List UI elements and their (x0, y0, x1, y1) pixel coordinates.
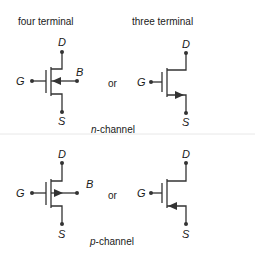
n-channel-three-terminal-symbol (151, 53, 186, 113)
caption-suffix: -channel (97, 124, 135, 135)
p-channel-three-terminal-symbol (151, 163, 186, 224)
n3-source-label: S (182, 117, 189, 128)
p3-gate-label: G (137, 188, 146, 199)
n4-drain-label: D (58, 37, 66, 48)
p3-source-label: S (182, 229, 189, 240)
connector-or-n: or (108, 79, 117, 89)
p4-gate-label: G (16, 188, 25, 199)
n3-gate-label: G (137, 77, 146, 88)
n3-terminal-dots (149, 51, 188, 115)
header-four-terminal: four terminal (18, 17, 74, 27)
n4-source-label: S (58, 116, 65, 127)
connector-or-p: or (108, 191, 117, 201)
n-channel-caption: n-channel (91, 125, 135, 135)
p4-body-label: B (86, 179, 93, 190)
p4-drain-label: D (58, 149, 66, 160)
source-arrow-outward-icon (175, 91, 184, 99)
n4-gate-label: G (16, 76, 25, 87)
n3-drain-label: D (182, 39, 190, 50)
p-channel-caption: p-channel (90, 237, 134, 247)
header-three-terminal: three terminal (132, 17, 193, 27)
p4-source-label: S (58, 229, 65, 240)
body-arrow-outward-icon (54, 189, 63, 197)
source-arrow-inward-icon (168, 202, 177, 210)
body-arrow-inward-icon (52, 77, 61, 85)
p3-drain-label: D (182, 149, 190, 160)
n4-body-label: B (76, 67, 83, 78)
caption-suffix: -channel (96, 236, 134, 247)
